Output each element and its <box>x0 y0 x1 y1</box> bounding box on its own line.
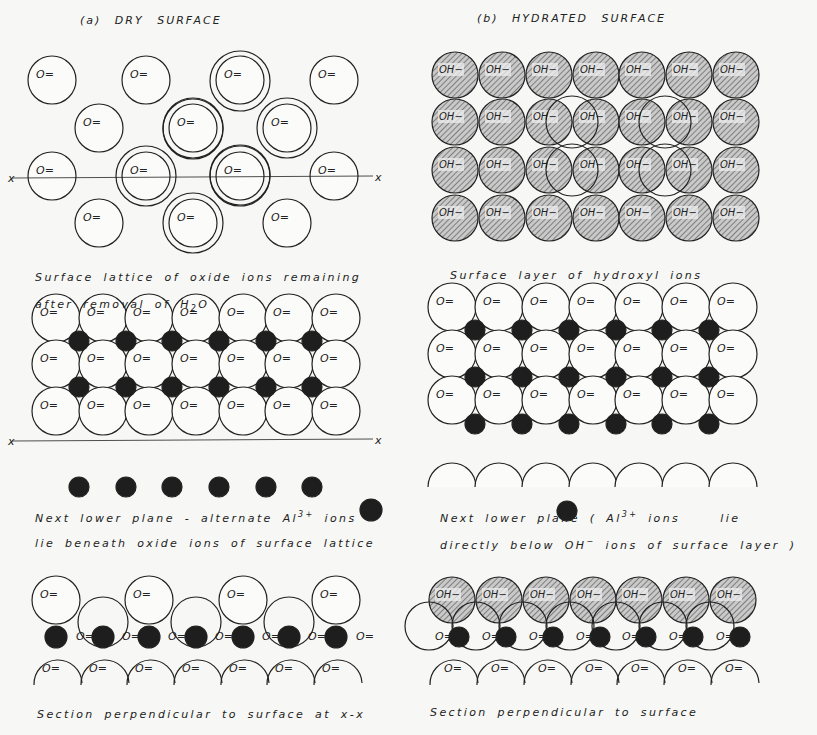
oxide-ion-label: O= <box>444 662 462 675</box>
hydroxyl-ion-label: OH− <box>580 207 604 218</box>
aluminium-ion <box>699 367 719 387</box>
aluminium-ion <box>209 477 229 497</box>
hydroxyl-ion-label: OH− <box>673 111 697 122</box>
oxide-ion-label: O= <box>483 295 501 308</box>
oxide-ion-label: O= <box>273 399 291 412</box>
aluminium-ion <box>256 331 276 351</box>
panel-a-title: (a) DRY SURFACE <box>80 14 222 27</box>
hydroxyl-ion-label: OH− <box>533 64 557 75</box>
panel-a-caption-2-line2: lie beneath oxide ions of surface lattic… <box>35 537 375 550</box>
oxide-ion-label: O= <box>436 295 454 308</box>
oxide-ion-label: O= <box>83 211 101 224</box>
panel-b-caption-1: Surface layer of hydroxyl ions <box>450 269 702 282</box>
aluminium-ion <box>512 367 532 387</box>
panel-b-caption-2-line1: Next lower plane ( Al3+ ionslie <box>440 510 740 525</box>
aluminium-ion <box>138 626 160 648</box>
oxide-ion-label: O= <box>725 662 743 675</box>
hydroxyl-ion-label: OH− <box>580 111 604 122</box>
aluminium-ion <box>465 414 485 434</box>
oxide-ion-label: O= <box>130 164 148 177</box>
aluminium-ion <box>209 331 229 351</box>
aluminium-ion <box>325 626 347 648</box>
oxide-ion-label: O= <box>215 630 233 643</box>
panel-b-caption-2-line2: directly below OH− ions of surface layer… <box>440 537 796 552</box>
hydroxyl-ion-label: OH− <box>486 207 510 218</box>
oxide-ion-label: O= <box>669 630 687 643</box>
hydroxyl-ion-label: OH− <box>626 159 650 170</box>
oxide-ion-label: O= <box>182 662 200 675</box>
oxide-ion-label: O= <box>631 662 649 675</box>
oxide-ion-label: O= <box>271 116 289 129</box>
aluminium-ion <box>162 331 182 351</box>
hydroxyl-ion-label: OH− <box>717 589 741 600</box>
oxide-ion-label: O= <box>87 399 105 412</box>
oxide-ion-label: O= <box>622 630 640 643</box>
panel-a-caption-1-line2: after removal of H2O <box>35 298 209 313</box>
aluminium-ion <box>209 377 229 397</box>
hydroxyl-ion-label: OH− <box>626 111 650 122</box>
oxide-ion-partial <box>709 463 757 487</box>
oxide-ion-label: O= <box>530 342 548 355</box>
hydroxyl-ion-label: OH− <box>626 64 650 75</box>
oxide-ion-label: O= <box>577 295 595 308</box>
x-axis-label-right: x <box>374 434 382 447</box>
aluminium-ion <box>69 377 89 397</box>
oxide-ion-label: O= <box>271 211 289 224</box>
oxide-ion-partial <box>475 463 523 487</box>
oxide-ion-partial <box>428 463 476 487</box>
oxide-ion-label: O= <box>320 588 338 601</box>
aluminium-ion <box>559 367 579 387</box>
oxide-ion-label: O= <box>320 352 338 365</box>
oxide-ion-label: O= <box>717 388 735 401</box>
x-axis-label-left: x <box>7 172 15 185</box>
aluminium-ion <box>559 414 579 434</box>
oxide-ion-label: O= <box>87 352 105 365</box>
aluminium-ion <box>699 320 719 340</box>
oxide-ion-label: O= <box>538 662 556 675</box>
hydroxyl-ion-label: OH− <box>530 589 554 600</box>
aluminium-ion <box>69 331 89 351</box>
hydroxyl-ion-label: OH− <box>486 64 510 75</box>
oxide-ion-partial <box>615 463 663 487</box>
aluminium-ion <box>116 377 136 397</box>
oxide-ion-partial <box>522 463 570 487</box>
oxide-ion-label: O= <box>717 342 735 355</box>
aluminium-ion <box>302 377 322 397</box>
oxide-ion-partial <box>662 463 710 487</box>
oxide-ion-label: O= <box>585 662 603 675</box>
aluminium-ion <box>512 320 532 340</box>
oxide-ion-label: O= <box>36 164 54 177</box>
panel-b-title: (b) HYDRATED SURFACE <box>477 12 666 25</box>
oxide-ion-label: O= <box>716 630 734 643</box>
aluminium-ion <box>606 320 626 340</box>
oxide-ion-label: O= <box>483 342 501 355</box>
oxide-ion-label: O= <box>577 388 595 401</box>
hydroxyl-ion-label: OH− <box>670 589 694 600</box>
aluminium-ion <box>652 367 672 387</box>
hydroxyl-ion-label: OH− <box>720 207 744 218</box>
panel-b-caption-3: Section perpendicular to surface <box>430 706 698 719</box>
oxide-ion-label: O= <box>133 399 151 412</box>
hydroxyl-ion-label: OH− <box>436 589 460 600</box>
aluminium-ion <box>360 499 382 521</box>
oxide-ion-label: O= <box>678 662 696 675</box>
oxide-ion-label: O= <box>491 662 509 675</box>
hydroxyl-ion-label: OH− <box>673 159 697 170</box>
aluminium-ion <box>278 626 300 648</box>
oxide-ion-label: O= <box>318 68 336 81</box>
oxide-ion-label: O= <box>36 68 54 81</box>
oxide-ion-label: O= <box>224 68 242 81</box>
hydroxyl-ion-label: OH− <box>577 589 601 600</box>
oxide-ion-label: O= <box>135 662 153 675</box>
oxide-ion-label: O= <box>83 116 101 129</box>
oxide-ion-label: O= <box>435 630 453 643</box>
oxide-ion-label: O= <box>576 630 594 643</box>
panel-a-caption-3: Section perpendicular to surface at x-x <box>37 708 365 721</box>
oxide-ion-label: O= <box>308 630 326 643</box>
oxide-ion-label: O= <box>273 306 291 319</box>
hydroxyl-ion-label: OH− <box>720 159 744 170</box>
hydroxyl-ion-label: OH− <box>623 589 647 600</box>
oxide-ion-label: O= <box>180 352 198 365</box>
aluminium-ion <box>256 377 276 397</box>
oxide-ion-label: O= <box>168 630 186 643</box>
